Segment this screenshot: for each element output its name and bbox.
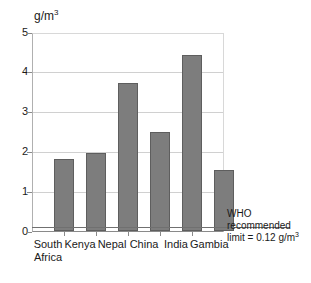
x-label-china: China	[128, 238, 160, 251]
x-tick-mark-1	[96, 232, 97, 236]
x-label-south-africa: SouthAfrica	[32, 238, 64, 264]
x-label-south-africa-line2: Africa	[34, 251, 62, 263]
x-label-gambia: Gambia	[190, 238, 226, 251]
x-tick-mark-2	[128, 232, 129, 236]
bar-south-africa[interactable]	[54, 159, 74, 231]
who-limit-annotation-line3: limit = 0.12 g/m3	[227, 232, 311, 244]
bar-china[interactable]	[150, 132, 170, 231]
x-tick-mark-3	[160, 232, 161, 236]
y-axis-unit-label: g/m3	[34, 9, 58, 23]
x-tick-mark-0	[64, 232, 65, 236]
y-axis-unit-base: g/m	[34, 9, 54, 23]
x-label-nepal: Nepal	[96, 238, 128, 251]
y-tick-mark-0	[27, 232, 32, 233]
plot-area	[32, 33, 224, 232]
who-limit-annotation-exponent: 3	[295, 231, 299, 238]
bar-chart-figure: g/m3 5 4 3 2 1 0 SouthAfrica Kenya Nepal…	[0, 0, 311, 283]
who-limit-annotation: WHO recommended limit = 0.12 g/m3	[227, 208, 311, 244]
bar-india[interactable]	[182, 55, 202, 231]
bar-nepal[interactable]	[118, 83, 138, 232]
x-tick-mark-4	[192, 232, 193, 236]
bar-kenya[interactable]	[86, 153, 106, 231]
who-limit-annotation-value: limit = 0.12 g/m	[227, 232, 295, 243]
x-label-south-africa-line1: South	[34, 238, 63, 250]
x-label-kenya: Kenya	[64, 238, 96, 251]
x-label-india: India	[160, 238, 192, 251]
who-limit-annotation-line1: WHO	[227, 208, 311, 220]
y-axis-unit-exponent: 3	[54, 8, 58, 17]
